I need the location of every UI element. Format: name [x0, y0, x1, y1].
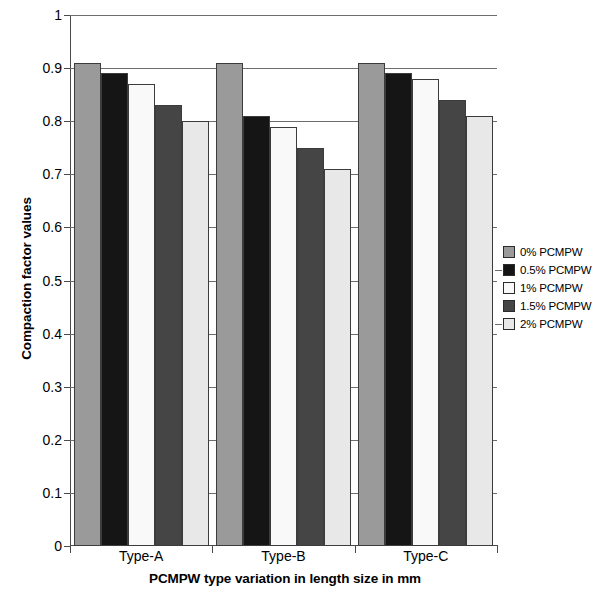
- x-category-label: Type-C: [355, 548, 497, 564]
- legend-item[interactable]: 0.5% PCMPW: [503, 261, 603, 279]
- bar: [324, 169, 351, 546]
- legend-swatch: [503, 264, 515, 276]
- y-tick-mark: [64, 281, 70, 282]
- x-category-label: Type-B: [212, 548, 354, 564]
- y-tick-label: 0.9: [16, 61, 62, 75]
- legend-swatch: [503, 282, 515, 294]
- gridline: [70, 68, 497, 69]
- bar: [439, 100, 466, 546]
- y-tick-mark: [64, 68, 70, 69]
- bar: [101, 73, 128, 546]
- y-tick-label: 0.4: [16, 327, 62, 341]
- bar: [358, 63, 385, 546]
- legend-leader-line: [495, 270, 502, 271]
- y-tick-mark: [64, 121, 70, 122]
- y-tick-label: 0.8: [16, 114, 62, 128]
- legend-label: 1.5% PCMPW: [520, 300, 592, 312]
- legend-label: 1% PCMPW: [520, 282, 582, 294]
- bar: [297, 148, 324, 546]
- y-tick-label: 1: [16, 8, 62, 22]
- y-tick-mark: [64, 493, 70, 494]
- legend-label: 0.5% PCMPW: [520, 264, 592, 276]
- x-tick-mark: [497, 546, 498, 553]
- gridline: [70, 15, 497, 16]
- bar: [155, 105, 182, 546]
- y-tick-mark: [64, 334, 70, 335]
- bar: [270, 127, 297, 546]
- legend-item[interactable]: 1% PCMPW: [503, 279, 603, 297]
- plot-area: [70, 15, 497, 546]
- bar: [412, 79, 439, 546]
- bar: [385, 73, 412, 546]
- y-tick-label: 0.2: [16, 433, 62, 447]
- bar: [182, 121, 209, 546]
- bar: [466, 116, 493, 546]
- y-tick-label: 0.7: [16, 167, 62, 181]
- bar: [216, 63, 243, 546]
- legend-item[interactable]: 2% PCMPW: [503, 315, 603, 333]
- y-tick-label: 0.6: [16, 220, 62, 234]
- legend-item[interactable]: 0% PCMPW: [503, 243, 603, 261]
- legend-label: 2% PCMPW: [520, 318, 582, 330]
- x-axis-title: PCMPW type variation in length size in m…: [60, 571, 510, 586]
- legend-swatch: [503, 246, 515, 258]
- legend-item[interactable]: 1.5% PCMPW: [503, 297, 603, 315]
- y-tick-mark: [64, 227, 70, 228]
- y-tick-label: 0.1: [16, 486, 62, 500]
- legend-swatch: [503, 318, 515, 330]
- bar: [243, 116, 270, 546]
- bar: [74, 63, 101, 546]
- y-tick-mark: [64, 387, 70, 388]
- legend-leader-line: [495, 324, 502, 325]
- y-tick-mark: [64, 440, 70, 441]
- legend-label: 0% PCMPW: [520, 246, 582, 258]
- chart-legend: 0% PCMPW0.5% PCMPW1% PCMPW1.5% PCMPW2% P…: [503, 243, 603, 333]
- y-tick-mark: [64, 174, 70, 175]
- bar-chart: Compaction factor values 00.10.20.30.40.…: [0, 0, 603, 593]
- y-tick-label: 0: [16, 539, 62, 553]
- y-axis-tick-labels: 00.10.20.30.40.50.60.70.80.91: [10, 0, 62, 593]
- x-category-label: Type-A: [70, 548, 212, 564]
- y-tick-label: 0.5: [16, 274, 62, 288]
- y-tick-mark: [64, 15, 70, 16]
- y-tick-label: 0.3: [16, 380, 62, 394]
- bar: [128, 84, 155, 546]
- legend-swatch: [503, 300, 515, 312]
